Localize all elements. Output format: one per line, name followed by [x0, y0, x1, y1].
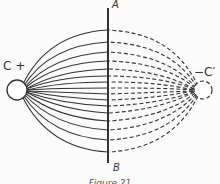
- label-c-prime: −C′: [194, 66, 215, 78]
- image-charge-diagram: [0, 0, 220, 184]
- solid-field-lines: [22, 30, 108, 152]
- charge-c-circle: [7, 80, 27, 100]
- label-a: A: [112, 0, 119, 10]
- label-b: B: [113, 163, 120, 173]
- image-charge-c-prime-circle: [194, 81, 212, 99]
- dashed-field-lines: [108, 30, 198, 152]
- label-c-plus: C +: [3, 60, 25, 72]
- figure-caption: Figure 21: [0, 178, 220, 184]
